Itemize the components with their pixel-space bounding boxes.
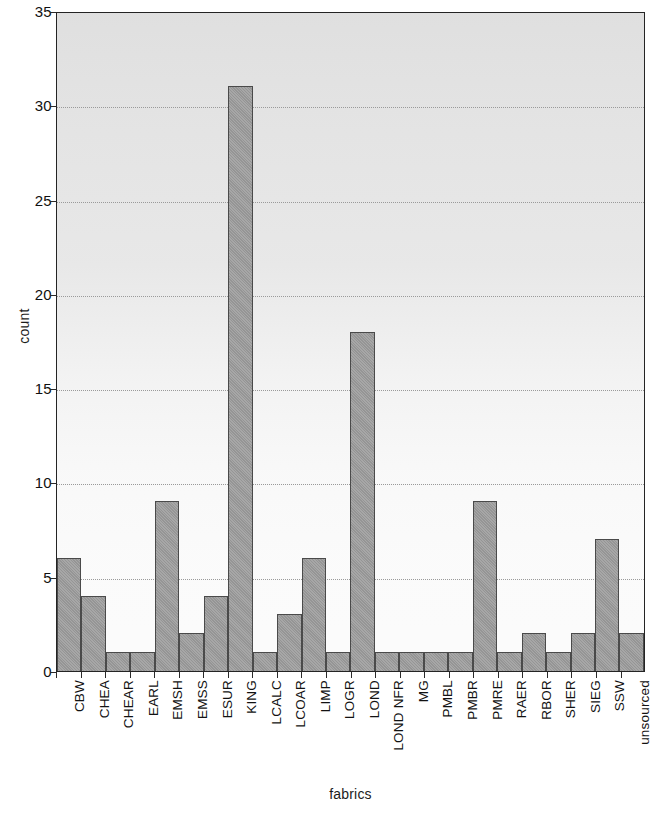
x-axis-label-slot: EMSS: [179, 680, 204, 775]
bar: [619, 633, 643, 671]
bar: [277, 614, 301, 671]
y-axis-tick-label: 25: [6, 193, 52, 208]
bar: [130, 652, 154, 671]
x-axis-tick-mark: [105, 672, 106, 678]
x-axis-tick-slot: [326, 672, 351, 679]
x-axis-tick-mark: [154, 672, 155, 678]
y-axis-tick-label: 0: [6, 664, 52, 679]
x-axis-tick-slot: [375, 672, 400, 679]
x-axis-tick-mark: [179, 672, 180, 678]
x-axis-title: fabrics: [56, 786, 645, 802]
x-axis-tick-slot: [596, 672, 621, 679]
x-axis-label-slot: PMRE: [473, 680, 498, 775]
x-axis-label-slot: MG: [400, 680, 425, 775]
x-axis-tick-mark: [424, 672, 425, 678]
x-axis-tick-slot: [228, 672, 253, 679]
x-axis-tick-slot: [547, 672, 572, 679]
bar: [473, 501, 497, 671]
x-axis-label-slot: CHEAR: [105, 680, 130, 775]
x-axis-label-slot: EARL: [130, 680, 155, 775]
x-axis-tick-mark: [277, 672, 278, 678]
bar: [448, 652, 472, 671]
bar: [546, 652, 570, 671]
x-axis-tick-mark: [547, 672, 548, 678]
x-axis-tick-mark: [326, 672, 327, 678]
x-axis-tick-mark: [571, 672, 572, 678]
x-axis-tick-mark: [375, 672, 376, 678]
x-axis-label-slot: LOND: [351, 680, 376, 775]
x-axis-label-slot: RBOR: [522, 680, 547, 775]
x-axis-tick-slot: [571, 672, 596, 679]
x-axis-tick-slot: [154, 672, 179, 679]
bar: [424, 652, 448, 671]
x-axis-label-slot: RAER: [498, 680, 523, 775]
bar: [228, 86, 252, 671]
bar: [326, 652, 350, 671]
x-axis-tick-slot: [473, 672, 498, 679]
plot-area: [56, 12, 645, 672]
x-axis-tick-mark: [130, 672, 131, 678]
x-axis-tick-mark: [498, 672, 499, 678]
bar: [571, 633, 595, 671]
x-axis-tick-mark: [596, 672, 597, 678]
x-axis-label-slot: EMSH: [154, 680, 179, 775]
x-axis-tick-slot: [203, 672, 228, 679]
bar: [81, 596, 105, 671]
bar: [375, 652, 399, 671]
x-axis-tick-mark: [81, 672, 82, 678]
x-axis-tick-slot: [130, 672, 155, 679]
x-axis-label-slot: CHEA: [81, 680, 106, 775]
y-axis-tick-label: 10: [6, 475, 52, 490]
x-axis-tick-mark: [228, 672, 229, 678]
x-axis-label-slot: CBW: [56, 680, 81, 775]
bar: [106, 652, 130, 671]
bar: [302, 558, 326, 671]
x-axis-label-slot: LOGR: [326, 680, 351, 775]
x-axis-label-slot: PMBL: [424, 680, 449, 775]
x-axis-label-slot: SHER: [547, 680, 572, 775]
x-axis-label-slot: unsourced: [621, 680, 646, 775]
x-axis-label-slot: KING: [228, 680, 253, 775]
x-axis-label-slot: LCOAR: [277, 680, 302, 775]
bar-series: [57, 13, 644, 671]
x-axis-tick-label: unsourced: [638, 680, 652, 745]
x-axis-tick-mark: [252, 672, 253, 678]
x-axis-tick-slot: [252, 672, 277, 679]
bar: [204, 596, 228, 671]
x-axis-tick-mark: [56, 672, 57, 678]
x-axis-tick-mark: [473, 672, 474, 678]
bar: [253, 652, 277, 671]
y-axis-tick-label: 20: [6, 287, 52, 302]
x-axis-tick-slot: [56, 672, 81, 679]
bar: [57, 558, 81, 671]
x-axis-tick-slot: [621, 672, 646, 679]
x-axis-tick-slot: [105, 672, 130, 679]
y-axis-tick-label: 5: [6, 570, 52, 585]
bar: [399, 652, 423, 671]
y-axis-tick-label: 35: [6, 4, 52, 19]
y-axis-tick-labels: 05101520253035: [0, 0, 52, 815]
x-axis-label-slot: ESUR: [203, 680, 228, 775]
x-axis-tick-marks: [56, 672, 645, 679]
x-axis-tick-slot: [179, 672, 204, 679]
x-axis-tick-slot: [424, 672, 449, 679]
x-axis-tick-slot: [81, 672, 106, 679]
x-axis-label-slot: PMBR: [449, 680, 474, 775]
y-axis-tick-label: 15: [6, 381, 52, 396]
bar: [522, 633, 546, 671]
bar: [350, 332, 374, 671]
bar: [155, 501, 179, 671]
bar: [497, 652, 521, 671]
x-axis-tick-mark: [351, 672, 352, 678]
x-axis-tick-mark: [400, 672, 401, 678]
x-axis-tick-slot: [351, 672, 376, 679]
x-axis-tick-mark: [203, 672, 204, 678]
x-axis-label-slot: LCALC: [252, 680, 277, 775]
x-axis-tick-slot: [449, 672, 474, 679]
x-axis-label-slot: SIEG: [571, 680, 596, 775]
x-axis-tick-mark: [301, 672, 302, 678]
x-axis-tick-mark: [621, 672, 622, 678]
x-axis-label-slot: LOND NFR: [375, 680, 400, 775]
x-axis-tick-mark: [449, 672, 450, 678]
bar-chart-figure: count 05101520253035 CBWCHEACHEAREARLEMS…: [0, 0, 656, 815]
